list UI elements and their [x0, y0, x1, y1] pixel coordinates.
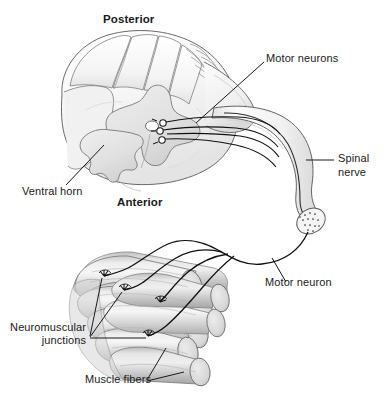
label-neuromuscular-line1: Neuromuscular [0, 321, 86, 334]
label-spinal-nerve-line1: Spinal [338, 152, 369, 165]
label-muscle-fibers: Muscle fibers [85, 373, 151, 386]
label-motor-neurons: Motor neurons [266, 52, 338, 65]
dorsal-root [204, 62, 255, 133]
label-neuromuscular-line2: junctions [0, 334, 86, 347]
label-posterior: Posterior [103, 13, 154, 26]
anatomy-figure: Posterior Anterior Motor neurons Spinal … [0, 0, 387, 403]
label-spinal-nerve-line2: nerve [338, 166, 366, 179]
label-anterior: Anterior [117, 196, 163, 209]
central-canal [146, 121, 159, 131]
label-ventral-horn: Ventral horn [22, 185, 83, 198]
label-motor-neuron: Motor neuron [265, 276, 332, 289]
